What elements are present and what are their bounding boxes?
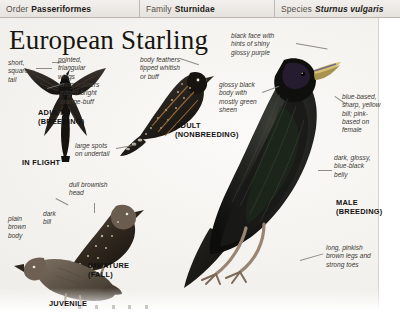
callout-pointed-triangular-wings: pointed, triangular wings bbox=[58, 56, 86, 81]
bird-male-breeding bbox=[176, 32, 341, 297]
taxonomy-species-rank: Species bbox=[281, 4, 312, 14]
plate-label-adult-nonbreeding: ADULT (NONBREEDING) bbox=[175, 121, 239, 140]
leader-line-tail bbox=[36, 68, 52, 69]
taxonomy-species-value: Sturnus vulgaris bbox=[315, 4, 384, 14]
plate-label-immature-fall: IMMATURE (FALL) bbox=[88, 261, 129, 280]
callout-dark-glossy-belly: dark, glossy, blue-black belly bbox=[334, 154, 371, 179]
callout-black-face: black face with hints of shiny glossy pu… bbox=[231, 32, 274, 57]
plate-label-adult-breeding: ADULT (BREEDING) bbox=[38, 108, 84, 127]
callout-body-feathers-tipped: body feathers tipped whitish or buff bbox=[140, 56, 180, 81]
plate-label-in-flight: IN FLIGHT bbox=[22, 158, 60, 167]
taxonomy-header: Order Passeriformes Family Sturnidae Spe… bbox=[0, 0, 400, 18]
callout-long-pinkish-legs: long, pinkish brown legs and strong toes bbox=[326, 244, 371, 269]
callout-short-square-tail: short, square tail bbox=[8, 59, 28, 84]
taxonomy-family-value: Sturnidae bbox=[175, 4, 215, 14]
callout-blue-based-bill: blue-based, sharp, yellow bill; pink- ba… bbox=[342, 93, 380, 134]
taxonomy-species: Species Sturnus vulgaris bbox=[275, 0, 400, 18]
leader-line-belly bbox=[318, 170, 332, 171]
callout-dull-brownish-head: dull brownish head bbox=[69, 181, 107, 198]
callout-glossy-black-body: glossy black body with mostly green shee… bbox=[219, 81, 257, 114]
plate-label-juvenile: JUVENILE bbox=[49, 299, 87, 308]
callout-plain-brown-body: plain brown body bbox=[8, 215, 26, 240]
taxonomy-order-value: Passeriformes bbox=[31, 4, 91, 14]
illustration-plate: European Starling short, square tail poi… bbox=[0, 18, 400, 314]
taxonomy-family: Family Sturnidae bbox=[140, 0, 275, 18]
taxonomy-family-rank: Family bbox=[146, 4, 172, 14]
page-title: European Starling bbox=[9, 25, 208, 55]
taxonomy-order-rank: Order bbox=[6, 4, 28, 14]
plate-label-male-breeding: MALE (BREEDING) bbox=[336, 198, 382, 217]
registration-marks bbox=[78, 305, 148, 310]
callout-large-spots-undertail: large spots on undertail bbox=[75, 142, 109, 159]
taxonomy-order: Order Passeriformes bbox=[0, 0, 140, 18]
callout-dark-bill: dark bill bbox=[43, 210, 56, 227]
leader-line-bill-immature bbox=[94, 203, 95, 213]
field-guide-page: Order Passeriformes Family Sturnidae Spe… bbox=[0, 0, 400, 314]
callout-wing-feathers-edged: wing feathers edged bright orange-buff bbox=[60, 81, 99, 106]
page-trim-strip bbox=[378, 18, 400, 314]
